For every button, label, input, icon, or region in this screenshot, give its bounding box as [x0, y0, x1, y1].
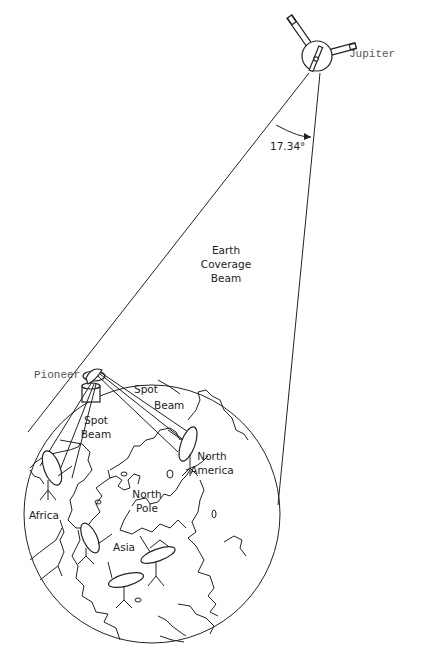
angle-label: 17.34°	[270, 140, 305, 152]
africa-label: Africa	[29, 509, 59, 521]
satellite-coverage-diagram: Jupiter Pioneer 17.34° Earth Coverage Be…	[0, 0, 446, 669]
asia-label: Asia	[113, 541, 135, 553]
north-pole-label-line1: North	[132, 488, 161, 500]
pioneer-label: Pioneer	[34, 369, 80, 381]
spot-beam-left-label-line2: Beam	[81, 428, 111, 440]
spot-beam-upper-label-line1: Spot	[134, 383, 158, 395]
jupiter-label: Jupiter	[349, 48, 395, 60]
earth-coverage-beam-label-line2: Coverage	[201, 258, 251, 270]
jupiter-satellite-icon	[287, 15, 356, 72]
dish-antenna-africa-icon	[38, 448, 72, 500]
earth-coverage-beam-label-line3: Beam	[211, 272, 241, 284]
dish-antenna-asia-1-icon	[77, 521, 112, 564]
north-america-label-line1: North	[197, 450, 226, 462]
spot-beam-upper-label-line2: Beam	[154, 399, 184, 411]
dish-antenna-asia-2-icon	[139, 536, 177, 586]
north-america-label-line2: America	[190, 464, 233, 476]
earth-globe	[24, 385, 280, 643]
angle-arc-icon	[276, 125, 311, 140]
spot-beams	[40, 372, 194, 480]
spot-beam-left-label-line1: Spot	[84, 414, 108, 426]
earth-coverage-beam-label-line1: Earth	[212, 244, 240, 256]
north-pole-label-line2: Pole	[136, 502, 158, 514]
dish-antenna-asia-3-icon	[107, 562, 145, 608]
coverage-beam-right-edge	[278, 73, 320, 505]
